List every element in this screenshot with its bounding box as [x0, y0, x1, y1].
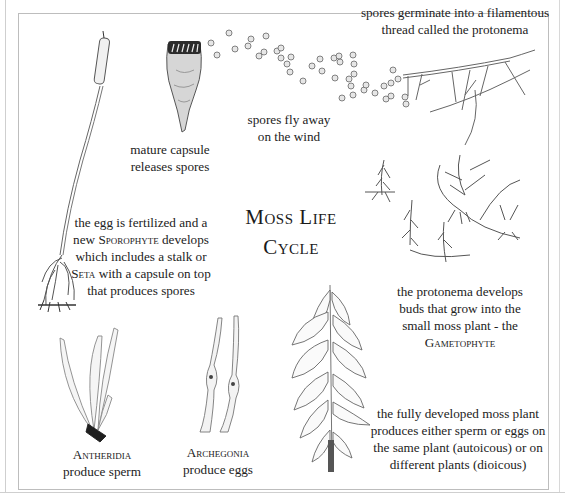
mature-capsule-illustration	[167, 41, 202, 132]
caption-spores: spores fly away on the wind	[234, 111, 344, 145]
caption-sporophyte-line-4: Seta with a capsule on top	[66, 265, 216, 282]
caption-gametophyte-line-3: small moss plant - the	[385, 317, 535, 334]
title-line-1: Moss Life	[226, 202, 356, 232]
caption-sporophyte-line-4-post: with a capsule on top	[95, 266, 210, 281]
caption-archegonia-line-2: produce eggs	[168, 461, 268, 478]
caption-antheridia-line-2: produce sperm	[52, 463, 152, 480]
caption-protonema-line-1: spores germinate into a filamentous	[355, 4, 555, 21]
archegonia-illustration	[200, 316, 239, 432]
caption-sporophyte-line-2-pre: new	[73, 232, 98, 247]
caption-antheridia: Antheridia produce sperm	[52, 446, 152, 480]
caption-gametophyte-line-2: buds that grow into the	[385, 300, 535, 317]
caption-capsule-line-1: mature capsule	[115, 141, 225, 158]
mature-moss-shoot-illustration	[292, 285, 370, 472]
caption-gametophyte: the protonema develops buds that grow in…	[385, 283, 535, 351]
caption-spores-line-2: on the wind	[234, 128, 344, 145]
caption-gametophyte-line-1: the protonema develops	[385, 283, 535, 300]
caption-mature-plant-line-3: the same plant (autoicous) or on	[368, 439, 548, 456]
caption-sporophyte-line-2: new Sporophyte develops	[66, 231, 216, 248]
caption-protonema: spores germinate into a filamentous thre…	[355, 4, 555, 38]
caption-mature-plant: the fully developed moss plant produces …	[368, 405, 548, 473]
caption-archegonia: Archegonia produce eggs	[168, 444, 268, 478]
caption-sporophyte-line-5: that produces spores	[66, 282, 216, 299]
title-line-2: Cycle	[226, 232, 356, 262]
term-seta: Seta	[71, 266, 95, 281]
caption-mature-plant-line-2: produces either sperm or eggs on	[368, 422, 548, 439]
protonema-illustration	[403, 50, 535, 145]
caption-sporophyte-line-3: which includes a stalk or	[66, 248, 216, 265]
caption-sporophyte-line-1: the egg is fertilized and a	[66, 214, 216, 231]
young-gametophytes-illustration	[365, 155, 520, 262]
spores-illustration	[208, 30, 409, 107]
caption-capsule: mature capsule releases spores	[115, 141, 225, 175]
caption-sporophyte: the egg is fertilized and a new Sporophy…	[66, 214, 216, 299]
caption-mature-plant-line-4: different plants (dioicous)	[368, 456, 548, 473]
term-gametophyte: Gametophyte	[385, 334, 535, 351]
antheridia-illustration	[60, 328, 118, 442]
caption-spores-line-1: spores fly away	[234, 111, 344, 128]
caption-protonema-line-2: thread called the protonema	[355, 21, 555, 38]
caption-capsule-line-2: releases spores	[115, 158, 225, 175]
term-archegonia: Archegonia	[168, 444, 268, 461]
diagram-title: Moss Life Cycle	[226, 202, 356, 262]
term-antheridia: Antheridia	[52, 446, 152, 463]
caption-sporophyte-line-2-post: develops	[159, 232, 209, 247]
term-sporophyte: Sporophyte	[98, 232, 158, 247]
caption-mature-plant-line-1: the fully developed moss plant	[368, 405, 548, 422]
